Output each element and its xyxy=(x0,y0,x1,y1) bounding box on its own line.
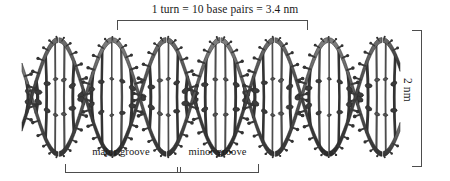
atom-node xyxy=(132,99,136,103)
atom-node xyxy=(130,53,133,56)
atom-node xyxy=(36,134,39,137)
atom-node xyxy=(29,72,33,76)
atom-node xyxy=(314,147,317,150)
atom-node xyxy=(258,46,261,49)
atom-node xyxy=(250,88,254,92)
atom-node xyxy=(351,124,355,128)
atom-node xyxy=(69,42,72,45)
atom-node xyxy=(31,121,35,125)
atom-node xyxy=(81,80,85,84)
nucleobase xyxy=(278,112,284,116)
atom-node xyxy=(358,62,361,65)
atom-node xyxy=(396,47,399,50)
atom-node xyxy=(296,63,300,67)
atom-node xyxy=(185,134,188,137)
atom-node xyxy=(216,36,218,38)
nucleobase xyxy=(286,105,293,110)
atom-node xyxy=(137,76,141,80)
atom-node xyxy=(390,152,392,154)
atom-node xyxy=(245,73,249,77)
atom-node xyxy=(308,53,311,56)
nucleobase xyxy=(44,82,51,86)
atom-node xyxy=(209,40,212,43)
atom-node xyxy=(346,54,349,57)
atom-node xyxy=(279,155,281,157)
atom-node xyxy=(192,118,196,122)
atom-node xyxy=(104,38,106,40)
atom-node xyxy=(242,84,246,88)
atom-node xyxy=(272,36,274,38)
atom-node xyxy=(320,38,322,40)
atom-node xyxy=(291,51,294,54)
atom-node xyxy=(195,84,199,88)
nucleobase xyxy=(173,109,179,113)
atom-node xyxy=(308,137,311,140)
nucleobase xyxy=(233,107,240,111)
atom-node xyxy=(247,121,251,125)
atom-node xyxy=(84,114,88,118)
atom-node xyxy=(235,49,238,52)
atom-node xyxy=(42,145,45,148)
atom-node xyxy=(353,115,357,119)
atom-node xyxy=(42,46,45,49)
atom-node xyxy=(291,140,294,143)
atom-node xyxy=(135,125,139,129)
atom-node xyxy=(356,110,360,114)
atom-node xyxy=(358,128,361,131)
atom-node xyxy=(147,51,150,54)
nucleobase xyxy=(337,110,343,114)
atom-node xyxy=(341,44,344,47)
nucleobase xyxy=(374,78,380,82)
atom-node xyxy=(80,62,83,65)
nucleobase xyxy=(148,84,155,89)
diameter-label: 2 nm xyxy=(402,78,414,102)
nucleobase xyxy=(390,108,397,112)
atom-node xyxy=(253,56,256,59)
atom-node xyxy=(48,39,50,41)
atom-node xyxy=(285,149,288,152)
atom-node xyxy=(272,156,274,158)
major-groove-label: major groove xyxy=(65,146,177,157)
atom-node xyxy=(235,142,238,145)
atom-node xyxy=(203,48,206,51)
atom-node xyxy=(74,140,77,143)
atom-node xyxy=(153,42,156,45)
atom-node xyxy=(328,156,330,158)
atom-node xyxy=(135,66,139,70)
atom-node xyxy=(390,39,392,41)
atom-node xyxy=(363,140,366,143)
atom-node xyxy=(240,60,243,63)
atom-node xyxy=(298,80,302,84)
nucleobase xyxy=(316,79,322,83)
atom-node xyxy=(253,134,256,137)
atom-node xyxy=(242,107,246,111)
atom-node xyxy=(351,66,355,70)
nucleobase xyxy=(119,111,125,115)
atom-node xyxy=(301,77,305,81)
atom-node xyxy=(247,69,251,73)
atom-node xyxy=(314,44,317,47)
atom-node xyxy=(55,36,57,38)
atom-node xyxy=(320,154,322,156)
atom-node xyxy=(192,73,196,77)
atom-node xyxy=(230,41,233,44)
atom-node xyxy=(147,140,150,143)
atom-node xyxy=(160,37,162,39)
nucleobase xyxy=(69,106,76,111)
atom-node xyxy=(80,128,83,131)
atom-node xyxy=(119,38,121,40)
atom-node xyxy=(55,156,57,158)
atom-node xyxy=(130,137,133,140)
minor-groove-label: minor groove xyxy=(177,146,258,157)
atom-node xyxy=(190,69,194,73)
atom-node xyxy=(240,131,243,134)
atom-node xyxy=(187,87,191,91)
atom-node xyxy=(48,152,50,154)
nucleobase xyxy=(201,82,208,86)
atom-node xyxy=(112,36,114,38)
atom-node xyxy=(335,38,337,40)
atom-node xyxy=(369,42,372,45)
atom-node xyxy=(396,145,399,148)
atom-node xyxy=(303,65,307,69)
nucleobase xyxy=(261,81,267,85)
